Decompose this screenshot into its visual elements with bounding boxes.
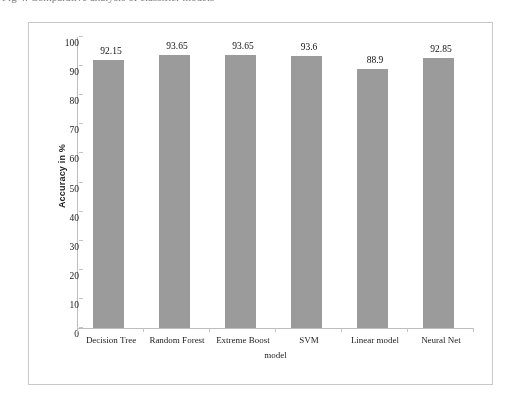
bar-slot: 93.65 (144, 37, 210, 328)
plot-area: 1009080706050403020100 92.1593.6593.6593… (77, 37, 474, 328)
bar-value-label: 93.6 (276, 42, 342, 52)
x-axis-category-label: Neural Net (408, 335, 474, 345)
bar-value-label: 93.65 (210, 41, 276, 51)
x-axis-tick-mark (77, 328, 78, 332)
y-axis-tick: 80 (33, 90, 79, 100)
bar-slot: 93.6 (276, 37, 342, 328)
bar[interactable] (225, 55, 256, 328)
x-axis-category-label: Random Forest (144, 335, 210, 345)
bar[interactable] (291, 56, 322, 328)
x-axis-tick-mark (407, 328, 408, 332)
x-axis-tick-mark (341, 328, 342, 332)
x-axis-category-label: Extreme Boost (210, 335, 276, 345)
bars-layer: 92.1593.6593.6593.688.992.85 (78, 37, 474, 328)
bar-slot: 92.15 (78, 37, 144, 328)
figure-caption: Fig 4. Comparative analysis of classifie… (2, 0, 214, 3)
y-axis-tick: 60 (33, 148, 79, 158)
bar[interactable] (423, 58, 454, 328)
x-axis-category-label: Linear model (342, 335, 408, 345)
bar-value-label: 92.85 (408, 44, 474, 54)
x-axis-title: model (77, 350, 474, 360)
bar-slot: 92.85 (408, 37, 474, 328)
y-axis-tick: 30 (33, 236, 79, 246)
bar-value-label: 92.15 (78, 46, 144, 56)
bar-value-label: 93.65 (144, 41, 210, 51)
y-axis-tick: 40 (33, 207, 79, 217)
y-axis-tick: 50 (33, 178, 79, 188)
x-axis-tick-mark (275, 328, 276, 332)
x-axis-tick-mark (473, 328, 474, 332)
x-axis-category-labels: Decision TreeRandom ForestExtreme BoostS… (78, 335, 474, 351)
y-axis-tick-label: 100 (65, 38, 79, 48)
y-axis-tick: 10 (33, 294, 79, 304)
bar-slot: 88.9 (342, 37, 408, 328)
x-axis-category-label: SVM (276, 335, 342, 345)
bar[interactable] (357, 69, 388, 328)
x-axis-tick-mark (143, 328, 144, 332)
bar-slot: 93.65 (210, 37, 276, 328)
y-axis-tick: 20 (33, 265, 79, 275)
bar[interactable] (93, 60, 124, 328)
y-axis-tick: 100 (33, 32, 79, 42)
y-axis-tick: 70 (33, 119, 79, 129)
bar[interactable] (159, 55, 190, 328)
chart-figure-frame: Accuracy in % 1009080706050403020100 92.… (28, 22, 493, 385)
x-axis-tick-mark (209, 328, 210, 332)
y-axis-tick: 0 (33, 323, 79, 333)
x-axis-category-label: Decision Tree (78, 335, 144, 345)
y-axis-tick: 90 (33, 61, 79, 71)
bar-value-label: 88.9 (342, 55, 408, 65)
figure-caption-strip: Fig 4. Comparative analysis of classifie… (0, 0, 509, 13)
